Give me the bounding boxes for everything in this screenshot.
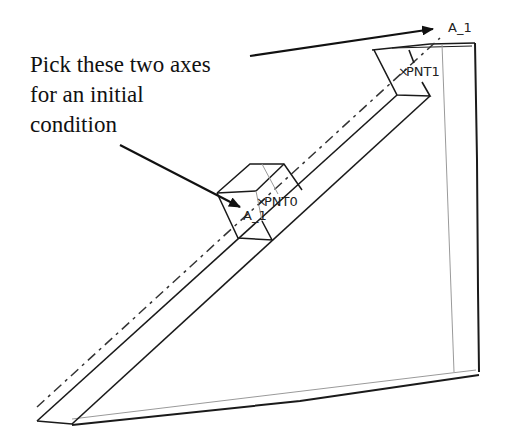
axis-line-dashed (37, 38, 440, 407)
point-label-pnt0[interactable]: PNT0 (264, 194, 298, 209)
cad-model-view: A_1 × PNT1 × PNT0 A_1 (0, 0, 520, 448)
arrow-to-top-axis (250, 29, 433, 56)
axis-label-top[interactable]: A_1 (448, 20, 472, 35)
diagonal-beam (37, 95, 430, 424)
arrow-to-lower-axis (120, 145, 240, 207)
point-label-pnt1[interactable]: PNT1 (406, 64, 440, 79)
axis-label-lower[interactable]: A_1 (243, 208, 267, 223)
